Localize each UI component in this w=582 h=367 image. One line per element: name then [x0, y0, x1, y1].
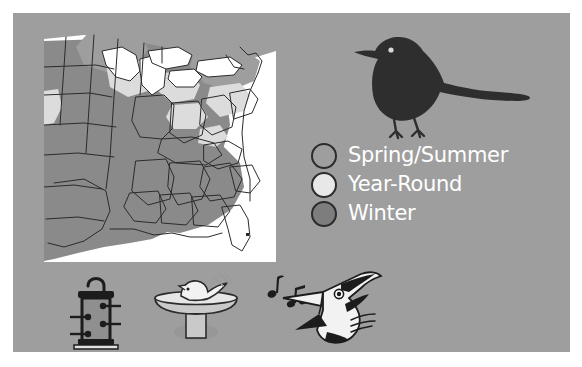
tube-bird-feeder-icon[interactable]: [61, 268, 131, 360]
range-legend: Spring/Summer Year-Round Winter: [311, 141, 561, 228]
singing-head-glyph: [265, 268, 385, 356]
legend-label-winter: Winter: [348, 203, 415, 224]
legend-swatch-spring-summer: [311, 143, 337, 169]
bird-attraction-icon-strip: [33, 268, 393, 358]
map-offshore-dot: [246, 233, 249, 236]
legend-item-spring-summer[interactable]: Spring/Summer: [311, 141, 561, 170]
bird-bath-icon[interactable]: [141, 268, 251, 360]
singing-bird-head-icon[interactable]: [265, 268, 385, 360]
legend-item-year-round[interactable]: Year-Round: [311, 170, 561, 199]
legend-swatch-year-round: [311, 172, 337, 198]
content-panel: Spring/Summer Year-Round Winter: [13, 13, 570, 352]
music-note-icon: [266, 275, 308, 308]
range-map[interactable]: [44, 33, 276, 262]
bird-illustration: [348, 33, 538, 143]
bird-bath-glyph: [141, 268, 251, 356]
screenshot-root: Spring/Summer Year-Round Winter: [0, 0, 582, 367]
legend-label-spring-summer: Spring/Summer: [348, 145, 508, 166]
legend-label-year-round: Year-Round: [348, 174, 462, 195]
legend-item-winter[interactable]: Winter: [311, 199, 561, 228]
legend-swatch-winter: [311, 201, 337, 227]
range-map-svg: [44, 33, 276, 262]
feeder-glyph: [61, 268, 131, 356]
songbird-silhouette-icon: [348, 33, 538, 143]
